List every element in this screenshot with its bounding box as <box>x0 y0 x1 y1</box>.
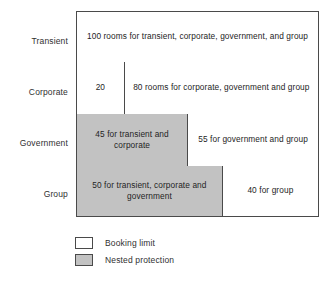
legend-label-booking-limit: Booking limit <box>105 238 155 248</box>
band-transient: 100 rooms for transient, corporate, gove… <box>76 11 319 63</box>
legend-swatch-shaded-icon <box>75 254 93 266</box>
band-government: 45 for transient and corporate 55 for go… <box>76 114 319 167</box>
legend-swatch-white-icon <box>75 237 93 249</box>
row-label-corporate: Corporate <box>0 88 68 97</box>
nesting-diagram-figure: Transient Corporate Government Group 100… <box>0 0 334 283</box>
cell-government-booking-limit: 55 for government and group <box>188 114 318 166</box>
row-label-government: Government <box>0 139 68 148</box>
cell-corporate-protection: 20 <box>77 62 125 114</box>
legend-item-booking-limit: Booking limit <box>75 234 275 251</box>
row-label-transient: Transient <box>0 37 68 46</box>
row-label-group: Group <box>0 190 68 199</box>
cell-transient-booking-limit: 100 rooms for transient, corporate, gove… <box>77 12 318 62</box>
legend: Booking limit Nested protection <box>75 234 275 268</box>
legend-item-nested-protection: Nested protection <box>75 251 275 268</box>
legend-label-nested-protection: Nested protection <box>105 255 174 265</box>
cell-group-booking-limit: 40 for group <box>223 166 318 216</box>
cell-corporate-booking-limit: 80 rooms for corporate, government and g… <box>125 62 318 114</box>
nesting-grid: 100 rooms for transient, corporate, gove… <box>76 11 319 217</box>
cell-group-nested-protection: 50 for transient, corporate and governme… <box>77 166 223 216</box>
band-group: 50 for transient, corporate and governme… <box>76 166 319 217</box>
band-corporate: 20 80 rooms for corporate, government an… <box>76 62 319 115</box>
cell-government-nested-protection: 45 for transient and corporate <box>77 114 188 166</box>
